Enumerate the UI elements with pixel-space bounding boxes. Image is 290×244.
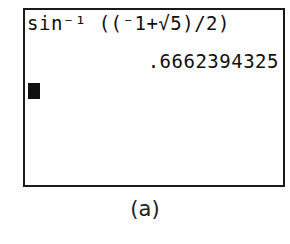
calculator-screen: sin⁻¹ ((⁻1+√5)/2) .6662394325: [23, 8, 285, 187]
block-cursor-icon: [28, 83, 40, 99]
result-line: .6662394325: [27, 50, 279, 72]
figure-caption: (a): [0, 197, 290, 221]
expression-line: sin⁻¹ ((⁻1+√5)/2): [27, 12, 279, 34]
